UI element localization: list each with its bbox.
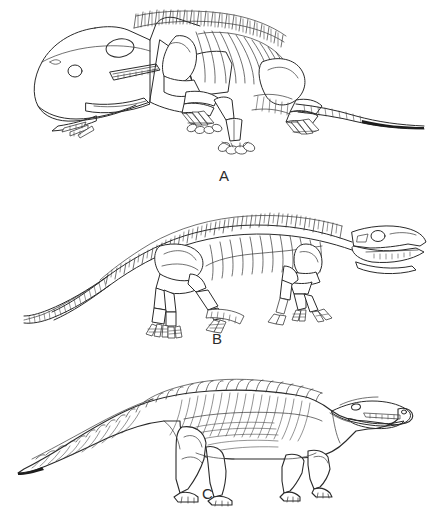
hindlimb-far-b <box>188 274 226 333</box>
manus-a <box>182 111 223 134</box>
skull-b <box>352 226 426 274</box>
neural-spines-a <box>134 10 286 47</box>
shoulder-forelimb-b <box>290 244 332 322</box>
pes-far-a <box>217 141 256 155</box>
manus-b-front <box>292 310 306 321</box>
panel-c-flesh-reconstruction <box>0 355 433 511</box>
skull-a <box>34 27 160 121</box>
panel-label-b: B <box>212 331 223 346</box>
shoulder-forelimb-a <box>163 36 223 135</box>
forelimb-far-c <box>280 454 304 502</box>
pes-b-far <box>168 326 182 338</box>
panel-label-a: A <box>219 168 230 183</box>
forelimb-near-c <box>308 450 332 498</box>
panel-label-c: C <box>202 486 213 501</box>
pes-b-near <box>146 324 168 337</box>
tail-b <box>24 276 110 323</box>
pelvis-hindlimb-a <box>259 59 322 134</box>
figure-plate: A B C <box>0 0 433 511</box>
panel-a-sprawling-skeleton <box>0 0 433 190</box>
